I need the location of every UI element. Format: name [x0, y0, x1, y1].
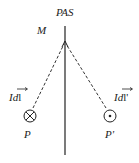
out-of-page-icon [104, 110, 116, 122]
point-m-label: M [36, 24, 47, 36]
into-page-icon [24, 110, 36, 122]
dashed-line-left [33, 44, 64, 108]
svg-text:Idl: Idl [8, 91, 21, 103]
point-p-label: P [23, 128, 31, 140]
svg-text:Idl': Idl' [113, 91, 128, 103]
diagram-canvas: PAS M Idl Idl' P P' [0, 0, 139, 163]
right-current-element-label: Idl' [113, 88, 133, 104]
point-p-prime-label: P' [104, 128, 115, 140]
axis-label: PAS [55, 6, 74, 18]
dashed-line-right [66, 44, 106, 108]
left-current-element-label: Idl [8, 88, 28, 104]
